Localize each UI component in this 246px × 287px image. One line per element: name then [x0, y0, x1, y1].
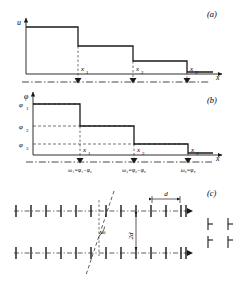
- panel-c-spacing-label: d: [164, 190, 168, 198]
- panel-b-step-curve: [33, 104, 213, 153]
- panel-b-tick-2: x 2: [136, 146, 145, 156]
- panel-b-baseline-markers: [77, 158, 192, 164]
- panel-c: ω 2d d: [14, 188, 233, 275]
- panel-b-level-3: φ 3: [19, 141, 29, 151]
- panel-a-tick-3: x 3: [189, 65, 198, 75]
- panel-b-level-3-label: φ: [19, 141, 23, 149]
- panel-a-tick-2-label: x: [135, 65, 140, 73]
- panel-b-level-2: φ 2: [19, 123, 29, 133]
- panel-b-level-1-label: φ: [19, 101, 23, 109]
- panel-c-row-gap-label: 2d: [127, 232, 135, 240]
- panel-c-top-termination: [186, 205, 193, 217]
- technical-figure: u x x 1 x 2 x 3 (a): [0, 0, 246, 287]
- panel-a-step-curve: [26, 27, 213, 72]
- panel-a-y-label: u: [17, 18, 21, 27]
- panel-b-tick-2-label: x: [136, 146, 141, 154]
- panel-b-level-1: φ 1: [19, 101, 29, 111]
- detail-element-tl: [208, 218, 213, 230]
- panel-c-tag: (c): [207, 188, 217, 198]
- panel-c-wavefront-line: [86, 191, 114, 275]
- panel-a-tag: (a): [207, 9, 217, 19]
- panel-b-level-2-sub: 2: [26, 128, 29, 133]
- panel-b-y-label: φ: [24, 92, 29, 101]
- panel-a-baseline-markers: [75, 78, 191, 84]
- panel-b-x-label: x: [215, 154, 220, 163]
- panel-b-tick-3: x 3: [190, 146, 199, 156]
- figure-container: u x x 1 x 2 x 3 (a): [0, 0, 246, 287]
- panel-b-weight-1: ω₁=φ₁−φ₂: [68, 167, 92, 173]
- panel-b: φ x φ 1 φ 2 φ 3 x 1 x 2 x 3 ω₁=φ₁−φ₂ ω: [19, 92, 222, 173]
- panel-c-angle-label: ω: [101, 228, 106, 235]
- detail-element-bl: [208, 236, 213, 248]
- detail-element-br: [228, 236, 233, 248]
- panel-c-element-detail: [208, 218, 233, 248]
- panel-c-bottom-termination: [186, 247, 193, 259]
- panel-b-tag: (b): [207, 95, 217, 105]
- panel-b-weight-2: ω₂=φ₂−φ₃: [122, 167, 146, 173]
- panel-a: u x x 1 x 2 x 3 (a): [17, 9, 222, 84]
- panel-a-tick-1-label: x: [80, 65, 85, 73]
- detail-element-tr: [228, 218, 233, 230]
- panel-a-x-label: x: [215, 73, 220, 82]
- panel-b-weight-3: ω₃=φ₃: [181, 167, 196, 173]
- panel-b-level-2-label: φ: [19, 123, 23, 131]
- panel-b-tick-1: x 1: [82, 146, 91, 156]
- panel-a-tick-2: x 2: [135, 65, 144, 75]
- panel-b-tick-1-label: x: [82, 146, 87, 154]
- panel-b-level-3-sub: 3: [26, 146, 29, 151]
- panel-a-tick-1: x 1: [80, 65, 89, 75]
- panel-b-level-1-sub: 1: [26, 106, 29, 111]
